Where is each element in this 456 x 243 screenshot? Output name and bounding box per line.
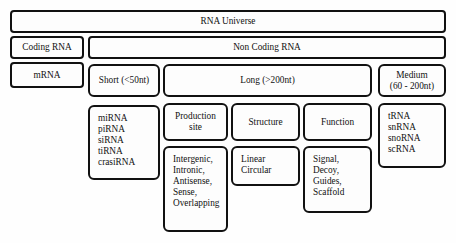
box-structure-heading: Structure: [231, 103, 300, 141]
production-site-item: Antisense,: [173, 176, 219, 187]
label-short-rna: Short (<50nt): [99, 75, 149, 86]
box-rna-universe: RNA Universe: [10, 10, 446, 33]
box-medium-rna-species: tRNA snRNA snoRNA scRNA: [378, 103, 446, 168]
label-mrna: mRNA: [34, 70, 61, 81]
box-function-heading: Function: [303, 103, 372, 141]
label-rna-universe: RNA Universe: [200, 16, 255, 27]
function-item: Signal,: [313, 154, 344, 165]
label-non-coding-rna: Non Coding RNA: [233, 42, 301, 53]
label-coding-rna: Coding RNA: [22, 42, 71, 53]
box-function-values: Signal, Decoy, Guides, Scaffold: [303, 146, 372, 213]
structure-item: Circular: [241, 165, 271, 176]
production-site-item: Overlapping: [173, 198, 219, 209]
label-medium-rna-line2: (60 - 200nt): [390, 81, 434, 92]
label-production-site-line2: site: [189, 122, 202, 133]
rna-classification-diagram: RNA Universe Coding RNA Non Coding RNA m…: [0, 0, 456, 243]
label-medium-rna-line1: Medium: [396, 70, 428, 81]
short-species-item: miRNA: [98, 113, 135, 124]
box-production-site-heading: Production site: [163, 103, 228, 141]
structure-item: Linear: [241, 154, 271, 165]
production-site-item: Intergenic,: [173, 154, 219, 165]
short-species-item: crasiRNA: [98, 157, 135, 168]
label-production-site-line1: Production: [175, 111, 216, 122]
label-function: Function: [321, 117, 354, 128]
medium-species-item: snRNA: [388, 122, 421, 133]
box-long-rna: Long (>200nt): [163, 64, 372, 97]
short-species-item: piRNA: [98, 124, 135, 135]
medium-species-item: tRNA: [388, 111, 421, 122]
production-site-item: Intronic,: [173, 165, 219, 176]
box-non-coding-rna: Non Coding RNA: [88, 36, 446, 59]
box-medium-rna: Medium (60 - 200nt): [378, 64, 446, 97]
box-structure-values: Linear Circular: [231, 146, 300, 186]
box-mrna: mRNA: [10, 62, 84, 88]
function-item: Scaffold: [313, 187, 344, 198]
medium-species-item: scRNA: [388, 144, 421, 155]
medium-species-item: snoRNA: [388, 133, 421, 144]
short-species-item: tiRNA: [98, 146, 135, 157]
box-short-rna: Short (<50nt): [88, 64, 160, 97]
box-coding-rna: Coding RNA: [10, 36, 84, 59]
box-production-site-values: Intergenic, Intronic, Antisense, Sense, …: [163, 146, 228, 232]
box-short-rna-species: miRNA piRNA siRNA tiRNA crasiRNA: [88, 105, 160, 180]
label-long-rna: Long (>200nt): [240, 75, 295, 86]
function-item: Decoy,: [313, 165, 344, 176]
label-structure: Structure: [248, 117, 282, 128]
function-item: Guides,: [313, 176, 344, 187]
production-site-item: Sense,: [173, 187, 219, 198]
short-species-item: siRNA: [98, 135, 135, 146]
